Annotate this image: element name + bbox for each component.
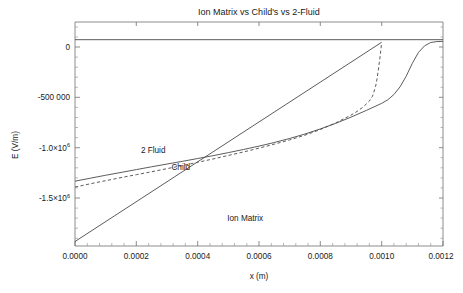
x-tick-label: 0.0004: [185, 252, 210, 261]
x-tick-label: 0.0010: [369, 252, 394, 261]
y-axis-ticks: [75, 27, 80, 238]
x-tick-label: 0.0000: [62, 252, 87, 261]
series-ion-matrix: [75, 42, 382, 241]
x-tick-label: 0.0012: [428, 252, 453, 261]
top-axis-ticks: [136, 22, 381, 26]
y-axis-title: E (V/m): [11, 131, 20, 159]
series-annotation-2-fluid: 2 Fluid: [141, 146, 166, 155]
data-series-group: [75, 40, 443, 242]
x-axis-title: x (m): [250, 272, 269, 281]
y-tick-label: -1.5×106: [39, 193, 70, 203]
y-tick-label: -1.0×106: [39, 142, 70, 152]
y-tick-label-mantissa: -1.0×10: [39, 144, 67, 153]
y-tick-label-mantissa: -500 000: [38, 93, 71, 102]
series-child: [75, 43, 382, 187]
x-tick-label: 0.0006: [246, 252, 271, 261]
chart-title: Ion Matrix vs Child's vs 2-Fluid: [198, 7, 320, 17]
x-tick-label: 0.0002: [124, 252, 149, 261]
series-annotation-child: Child: [171, 163, 190, 172]
y-tick-label-exponent: 6: [67, 142, 70, 148]
chart-figure: 0.0000 0.0002 0.0004 0.0006 0.0008 0.001…: [0, 0, 463, 293]
y-tick-labels: 0 -500 000 -1.0×106 -1.5×106: [38, 43, 71, 203]
y-tick-label-exponent: 6: [67, 193, 70, 199]
plot-canvas: 0.0000 0.0002 0.0004 0.0006 0.0008 0.001…: [0, 0, 463, 293]
x-tick-label: 0.0008: [308, 252, 333, 261]
x-tick-labels: 0.0000 0.0002 0.0004 0.0006 0.0008 0.001…: [62, 252, 453, 261]
y-tick-label: 0: [65, 43, 70, 52]
series-annotation-ion-matrix: Ion Matrix: [227, 214, 263, 223]
x-axis-ticks: [75, 241, 443, 246]
series-2-fluid: [75, 41, 443, 181]
plot-frame: [75, 22, 443, 246]
y-tick-label: -500 000: [38, 93, 71, 102]
right-axis-ticks: [439, 27, 443, 238]
y-tick-label-mantissa: 0: [65, 43, 70, 52]
y-tick-label-mantissa: -1.5×10: [39, 194, 67, 203]
